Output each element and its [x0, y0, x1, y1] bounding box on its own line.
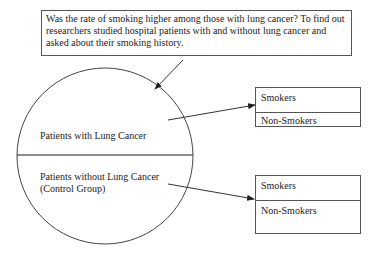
- cases-label: Patients with Lung Cancer: [40, 130, 146, 142]
- control-smoking-box: Smokers Non-Smokers: [255, 175, 361, 234]
- cases-smokers-cell: Smokers: [256, 88, 360, 112]
- control-label-line1: Patients without Lung Cancer: [40, 171, 159, 183]
- control-nonsmokers-cell: Non-Smokers: [256, 200, 360, 233]
- cases-smoking-box: Smokers Non-Smokers: [255, 87, 361, 127]
- cases-nonsmokers-cell: Non-Smokers: [256, 112, 360, 126]
- control-smokers-cell: Smokers: [256, 176, 360, 200]
- control-label-line2: (Control Group): [40, 183, 159, 195]
- control-label: Patients without Lung Cancer (Control Gr…: [40, 171, 159, 195]
- patient-circle: [17, 68, 193, 244]
- question-arrow: [155, 60, 183, 89]
- question-text: Was the rate of smoking higher among tho…: [46, 13, 345, 48]
- question-box: Was the rate of smoking higher among tho…: [41, 10, 352, 56]
- control-arrow: [168, 184, 254, 199]
